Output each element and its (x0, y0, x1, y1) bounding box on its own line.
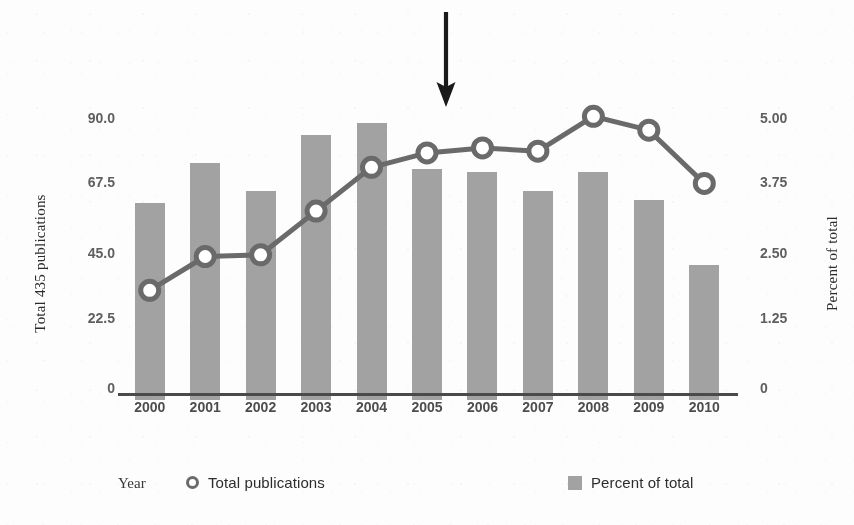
data-point-2007 (529, 142, 547, 160)
y-left-tick-67-5: 67.5 (88, 174, 115, 190)
x-tick-2003: 2003 (288, 399, 344, 415)
x-axis-ticks: 2000200120022003200420052006200720082009… (122, 399, 732, 423)
y-right-tick-5: 5.00 (760, 110, 787, 126)
y-left-tick-90: 90.0 (88, 110, 115, 126)
data-point-2006 (474, 139, 492, 157)
y-left-tick-22-5: 22.5 (88, 310, 115, 326)
legend-item-label: Percent of total (591, 474, 694, 491)
y-left-tick-0: 0 (107, 380, 115, 396)
y-axis-left-ticks: 90.0 67.5 45.0 22.5 0 (55, 0, 115, 525)
plot-area (122, 100, 732, 400)
x-tick-2008: 2008 (565, 399, 621, 415)
line-markers (141, 107, 714, 299)
data-point-2002 (252, 246, 270, 264)
data-point-2010 (695, 174, 713, 192)
data-point-2008 (584, 107, 602, 125)
data-point-2005 (418, 144, 436, 162)
data-point-2001 (196, 248, 214, 266)
x-tick-2001: 2001 (177, 399, 233, 415)
legend-item-total-publications: Total publications (186, 474, 325, 491)
data-point-2004 (363, 158, 381, 176)
legend-x-axis-title: Year (118, 475, 146, 492)
bar-swatch-icon (568, 476, 582, 490)
y-axis-right-ticks: 5.00 3.75 2.50 1.25 0 (760, 0, 820, 525)
legend-item-label: Total publications (208, 474, 325, 491)
line-series-total-publications (122, 100, 732, 400)
open-circle-marker-icon (186, 476, 199, 489)
data-point-2003 (307, 202, 325, 220)
x-axis-line (118, 393, 738, 396)
y-right-tick-3-75: 3.75 (760, 174, 787, 190)
x-tick-2009: 2009 (621, 399, 677, 415)
x-tick-2010: 2010 (676, 399, 732, 415)
chart-legend: Year Total publications Percent of total (0, 465, 854, 505)
x-tick-2002: 2002 (233, 399, 289, 415)
y-right-tick-1-25: 1.25 (760, 310, 787, 326)
x-tick-2000: 2000 (122, 399, 178, 415)
y-left-tick-45: 45.0 (88, 245, 115, 261)
x-tick-2006: 2006 (454, 399, 510, 415)
down-arrow-icon (432, 10, 460, 110)
x-tick-2007: 2007 (510, 399, 566, 415)
y-right-tick-2-5: 2.50 (760, 245, 787, 261)
y-axis-right-title: Percent of total (824, 154, 841, 374)
y-axis-left-title: Total 435 publications (32, 154, 49, 374)
x-tick-2005: 2005 (399, 399, 455, 415)
chart-figure: Total 435 publications Percent of total … (0, 0, 854, 525)
legend-item-percent-of-total: Percent of total (568, 474, 694, 491)
data-point-2009 (640, 121, 658, 139)
x-tick-2004: 2004 (344, 399, 400, 415)
y-right-tick-0: 0 (760, 380, 768, 396)
data-point-2000 (141, 281, 159, 299)
